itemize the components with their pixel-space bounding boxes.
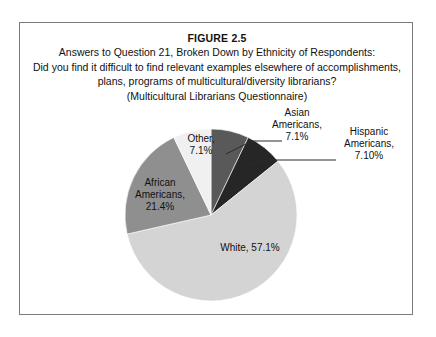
pie-chart: Asian Americans, 7.1% Hispanic Americans…: [20, 23, 414, 316]
pie-label-african-americans-line2: Americans,: [135, 189, 185, 200]
pie-label-asian-americans-line3: 7.1%: [286, 131, 309, 142]
pie-label-other-line1: Other,: [187, 133, 214, 144]
figure-frame: FIGURE 2.5 Answers to Question 21, Broke…: [19, 22, 413, 315]
figure-container: FIGURE 2.5 Answers to Question 21, Broke…: [0, 0, 436, 337]
pie-label-white: White, 57.1%: [220, 242, 280, 253]
pie-label-asian-americans-line1: Asian: [284, 107, 309, 118]
pie-label-hispanic-americans-line2: Americans,: [344, 138, 394, 149]
pie-label-african-americans-line1: African: [144, 177, 175, 188]
pie-label-other-line2: 7.1%: [190, 145, 213, 156]
pie-label-hispanic-americans-line3: 7.10%: [355, 150, 383, 161]
pie-label-hispanic-americans-line1: Hispanic: [350, 126, 388, 137]
pie-label-african-americans-line3: 21.4%: [146, 201, 174, 212]
pie-label-asian-americans-line2: Americans,: [272, 119, 322, 130]
